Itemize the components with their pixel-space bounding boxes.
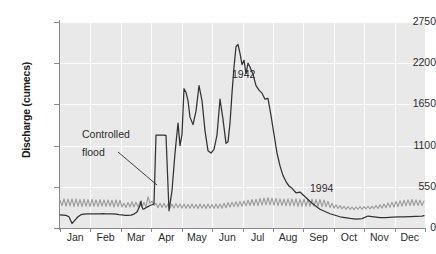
controlled-flood-leader-line	[118, 152, 157, 185]
series-label-1942: 1942	[232, 68, 255, 80]
discharge-hydrograph-figure: Discharge (cumecs) 05501100165022002750 …	[0, 0, 436, 254]
series-overlay	[0, 0, 436, 254]
controlled-flood-label-line1: Controlled	[82, 128, 130, 140]
series-label-1994: 1994	[310, 182, 333, 194]
series-line-1994	[60, 197, 424, 210]
controlled-flood-label-line2: flood	[82, 146, 105, 158]
